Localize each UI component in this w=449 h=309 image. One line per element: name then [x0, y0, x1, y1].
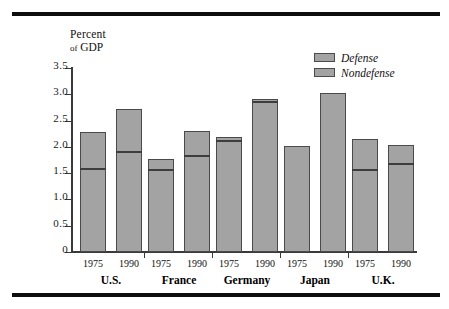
- y-tick-label: 2.0: [53, 139, 68, 150]
- legend-item-defense: Defense: [314, 50, 395, 65]
- bar-segment-divider: [184, 155, 210, 157]
- y-tick-label: 1.5: [53, 165, 68, 176]
- y-tick-label: 3.0: [53, 86, 68, 97]
- y-tick-label: 0.5: [53, 218, 68, 229]
- x-tick-separator: [144, 252, 145, 258]
- bar-segment-divider: [388, 163, 414, 165]
- bar-segment-divider: [216, 140, 242, 142]
- x-tick-label-year: 1975: [141, 259, 181, 269]
- x-tick-label-year: 1975: [345, 259, 385, 269]
- legend-swatch-icon: [314, 53, 335, 62]
- bar-segment-divider: [148, 169, 174, 171]
- y-tick-label: 2.5: [53, 113, 68, 124]
- x-tick-label-year: 1975: [73, 259, 113, 269]
- y-axis-title-line2-main: GDP: [80, 41, 103, 53]
- x-axis-group-label: U.K.: [338, 274, 428, 286]
- bar-us-1975: [80, 132, 106, 252]
- bar-segment-divider: [352, 169, 378, 171]
- bottom-rule: [12, 293, 440, 297]
- bar-segment-divider: [116, 151, 142, 153]
- y-axis-title: Percent of GDP: [70, 28, 106, 55]
- y-axis-title-line2-prefix: of: [70, 43, 78, 53]
- bar-us-1990: [116, 109, 142, 252]
- figure-panel: Percent of GDP DefenseNondefense 00.51.0…: [0, 0, 449, 309]
- bar-france-1990: [184, 131, 210, 252]
- x-tick-separator: [348, 252, 349, 258]
- x-tick-label-year: 1975: [277, 259, 317, 269]
- bar-japan-1990: [320, 93, 346, 252]
- y-tick-label: 0: [62, 244, 68, 255]
- y-axis-title-line1: Percent: [70, 28, 106, 40]
- top-rule: [12, 12, 440, 16]
- bar-germany-1990: [252, 99, 278, 252]
- y-tick-label: 1.0: [53, 191, 68, 202]
- y-tick-label: 3.5: [53, 60, 68, 71]
- legend-label: Defense: [341, 52, 378, 64]
- plot-area: 00.51.01.52.02.53.03.519751990U.S.197519…: [72, 68, 416, 252]
- x-tick-label-year: 1975: [209, 259, 249, 269]
- bar-germany-1975: [216, 137, 242, 252]
- x-tick-separator: [212, 252, 213, 258]
- x-tick-separator: [280, 252, 281, 258]
- bar-uk-1975: [352, 139, 378, 252]
- bar-segment-divider: [252, 101, 278, 103]
- x-tick-label-year: 1990: [381, 259, 421, 269]
- bar-uk-1990: [388, 145, 414, 252]
- bar-japan-1975: [284, 146, 310, 252]
- bar-segment-divider: [80, 168, 106, 170]
- bar-france-1975: [148, 159, 174, 252]
